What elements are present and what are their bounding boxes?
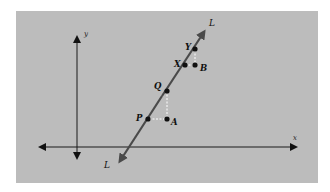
- point-X: [182, 62, 187, 67]
- line-label-bottom: L: [103, 160, 110, 170]
- x-axis-label: x: [293, 134, 297, 142]
- label-P: P: [135, 113, 143, 123]
- point-A: [164, 116, 169, 121]
- label-Y: Y: [185, 42, 192, 52]
- label-X: X: [173, 59, 181, 69]
- point-B: [192, 62, 197, 67]
- point-P: [145, 116, 150, 121]
- y-axis-label: y: [83, 30, 89, 38]
- label-A: A: [170, 117, 178, 127]
- slope-triangle-lower: [149, 91, 167, 119]
- label-B: B: [199, 63, 207, 73]
- line-L: [120, 32, 204, 161]
- point-Y: [192, 46, 197, 51]
- point-Q: [164, 88, 169, 93]
- line-label-top: L: [208, 18, 215, 28]
- coordinate-diagram: x y L L P A Q X B Y: [0, 0, 330, 192]
- label-Q: Q: [154, 81, 162, 91]
